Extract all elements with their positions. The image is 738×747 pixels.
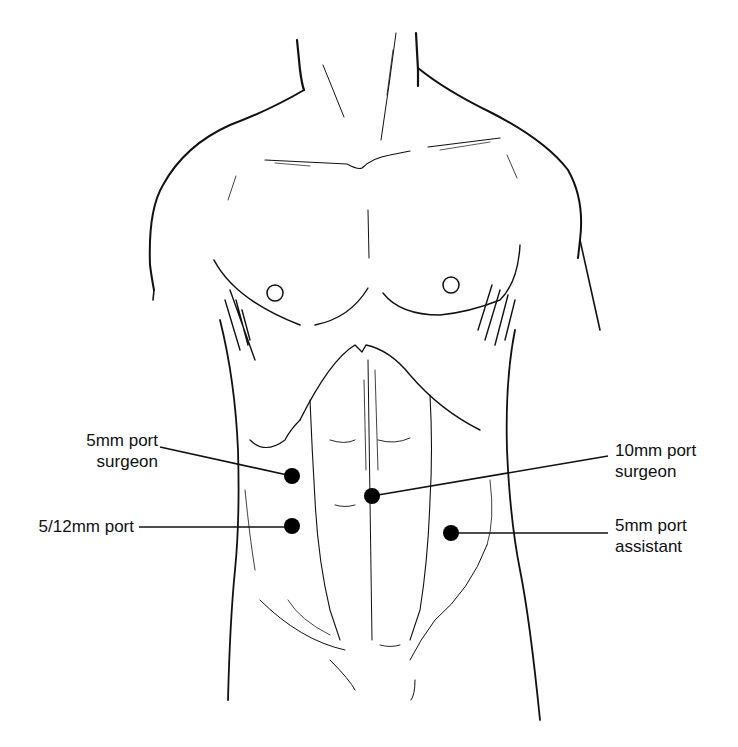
port-marker-10mm-surgeon <box>364 488 380 504</box>
leader-line-5mm-surgeon <box>160 447 292 476</box>
left-shoulder-outline <box>150 90 304 290</box>
right-torso-side <box>507 330 540 720</box>
right-thigh-inner <box>411 680 415 700</box>
label-5mm-port-assistant: 5mm port assistant <box>615 515 687 557</box>
label-line2: surgeon <box>40 451 158 472</box>
left-nipple <box>267 285 283 301</box>
label-line1: 5mm port <box>615 515 687 536</box>
left-thigh-inner <box>330 660 355 690</box>
label-line2: surgeon <box>615 461 696 482</box>
right-arm-inner <box>580 240 600 330</box>
right-serratus-hatch <box>478 285 515 345</box>
left-pectoral <box>214 260 300 325</box>
label-10mm-port-surgeon: 10mm port surgeon <box>615 440 696 482</box>
right-nipple <box>443 277 459 293</box>
label-5-12mm-port: 5/12mm port <box>14 516 134 537</box>
right-shoulder-outline <box>418 68 581 258</box>
leader-line-10mm-surgeon <box>372 456 608 496</box>
rectus-left-border <box>310 400 340 640</box>
rectus-right-border <box>410 395 432 640</box>
neck-muscle-left <box>323 65 344 117</box>
label-5mm-port-surgeon: 5mm port surgeon <box>40 430 158 472</box>
label-line2: assistant <box>615 536 687 557</box>
port-marker-5mm-surgeon <box>284 468 300 484</box>
right-clavicle <box>428 138 500 147</box>
left-clavicle <box>265 151 410 169</box>
rib-cage-outline <box>300 345 480 430</box>
neck-left-outline <box>297 40 304 90</box>
label-line1: 10mm port <box>615 440 696 461</box>
left-arm-inner <box>153 290 154 300</box>
port-marker-5mm-assistant <box>443 525 459 541</box>
left-lower-rib <box>250 420 300 448</box>
torso-illustration <box>0 0 738 747</box>
right-pectoral <box>383 245 520 315</box>
neck-right-outline <box>416 33 418 86</box>
label-line1: 5/12mm port <box>14 516 134 537</box>
label-line1: 5mm port <box>40 430 158 451</box>
left-inguinal-line <box>260 600 345 650</box>
sternum-line <box>368 210 369 258</box>
left-torso-side <box>220 320 239 700</box>
port-marker-5-12mm <box>284 518 300 534</box>
